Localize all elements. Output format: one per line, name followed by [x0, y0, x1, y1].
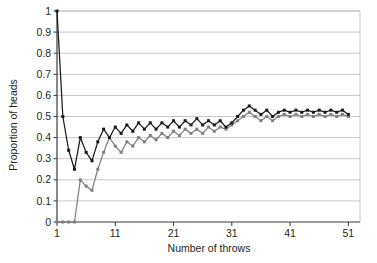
- chart-figure: 00.10.20.30.40.50.60.70.80.91 1112131415…: [0, 0, 377, 263]
- data-point-marker: [248, 104, 251, 107]
- data-point-marker: [149, 134, 152, 137]
- data-point-marker: [56, 221, 59, 224]
- data-point-marker: [335, 115, 338, 118]
- data-point-marker: [219, 126, 222, 129]
- series-line: [57, 112, 348, 222]
- chart-canvas: 00.10.20.30.40.50.60.70.80.91 1112131415…: [0, 0, 377, 263]
- data-point-marker: [131, 145, 134, 148]
- data-point-marker: [137, 136, 140, 139]
- data-point-marker: [283, 109, 286, 112]
- data-point-marker: [73, 168, 76, 171]
- data-point-marker: [172, 130, 175, 133]
- y-tick-label: 0.9: [36, 26, 51, 38]
- data-point-marker: [79, 136, 82, 139]
- data-point-marker: [90, 159, 93, 162]
- data-point-marker: [120, 132, 123, 135]
- data-point-marker: [294, 113, 297, 116]
- series-line: [57, 11, 348, 169]
- data-point-marker: [277, 115, 280, 118]
- data-point-marker: [67, 149, 70, 152]
- data-point-marker: [120, 151, 123, 154]
- data-point-marker: [190, 132, 193, 135]
- x-axis-tick-labels: 11121314151: [54, 227, 354, 239]
- y-tick-label: 0: [45, 216, 51, 228]
- x-tick-label: 51: [343, 227, 355, 239]
- data-point-marker: [213, 123, 216, 126]
- data-point-marker: [259, 113, 262, 116]
- data-point-marker: [178, 134, 181, 137]
- data-point-marker: [155, 128, 158, 131]
- data-point-marker: [254, 109, 257, 112]
- y-tick-label: 0.6: [36, 89, 51, 101]
- data-point-marker: [61, 115, 64, 118]
- data-point-marker: [306, 113, 309, 116]
- data-point-marker: [143, 128, 146, 131]
- y-tick-label: 0.3: [36, 152, 51, 164]
- data-point-marker: [166, 136, 169, 139]
- data-point-marker: [155, 138, 158, 141]
- y-tick-label: 0.7: [36, 68, 51, 80]
- data-point-marker: [201, 132, 204, 135]
- data-point-marker: [73, 221, 76, 224]
- x-tick-label: 31: [226, 227, 238, 239]
- data-point-marker: [85, 151, 88, 154]
- data-point-marker: [289, 111, 292, 114]
- y-axis-tick-labels: 00.10.20.30.40.50.60.70.80.91: [36, 5, 57, 228]
- y-tick-label: 0.2: [36, 173, 51, 185]
- x-axis-title: Number of throws: [168, 242, 251, 254]
- data-point-marker: [85, 185, 88, 188]
- y-tick-label: 1: [45, 5, 51, 17]
- data-point-marker: [242, 109, 245, 112]
- data-point-marker: [324, 115, 327, 118]
- data-point-marker: [335, 111, 338, 114]
- data-point-marker: [96, 168, 99, 171]
- data-point-marker: [341, 109, 344, 112]
- x-tick-label: 41: [284, 227, 296, 239]
- data-series: [56, 111, 350, 224]
- data-point-marker: [318, 113, 321, 116]
- data-point-marker: [207, 119, 210, 122]
- data-point-marker: [190, 123, 193, 126]
- data-point-marker: [79, 178, 82, 181]
- data-point-marker: [61, 221, 64, 224]
- y-tick-label: 0.8: [36, 47, 51, 59]
- data-point-marker: [230, 121, 233, 124]
- data-point-marker: [283, 113, 286, 116]
- data-point-marker: [341, 113, 344, 116]
- data-point-marker: [271, 115, 274, 118]
- data-point-marker: [102, 151, 105, 154]
- data-point-marker: [160, 132, 163, 135]
- data-point-marker: [114, 126, 117, 129]
- data-point-marker: [166, 126, 169, 129]
- data-series: [56, 10, 350, 171]
- data-point-marker: [195, 128, 198, 131]
- data-point-marker: [184, 119, 187, 122]
- data-point-marker: [56, 10, 59, 13]
- data-point-marker: [312, 111, 315, 114]
- data-point-marker: [259, 119, 262, 122]
- data-point-marker: [137, 121, 140, 124]
- data-point-marker: [143, 140, 146, 143]
- data-point-marker: [67, 221, 70, 224]
- data-point-marker: [289, 115, 292, 118]
- x-tick-label: 1: [54, 227, 60, 239]
- data-point-marker: [160, 121, 163, 124]
- data-point-marker: [248, 111, 251, 114]
- data-point-marker: [312, 115, 315, 118]
- data-point-marker: [219, 119, 222, 122]
- data-point-marker: [195, 117, 198, 120]
- y-tick-label: 0.4: [36, 131, 51, 143]
- data-point-marker: [131, 130, 134, 133]
- data-point-marker: [265, 115, 268, 118]
- data-point-marker: [102, 128, 105, 131]
- gridlines: [57, 11, 360, 201]
- data-point-marker: [254, 115, 257, 118]
- data-point-marker: [90, 189, 93, 192]
- data-point-marker: [236, 115, 239, 118]
- data-point-marker: [300, 115, 303, 118]
- data-point-marker: [271, 119, 274, 122]
- y-axis-title: Proportion of heads: [7, 79, 19, 171]
- data-point-marker: [242, 115, 245, 118]
- x-axis-ticks: [57, 222, 348, 226]
- data-point-marker: [184, 128, 187, 131]
